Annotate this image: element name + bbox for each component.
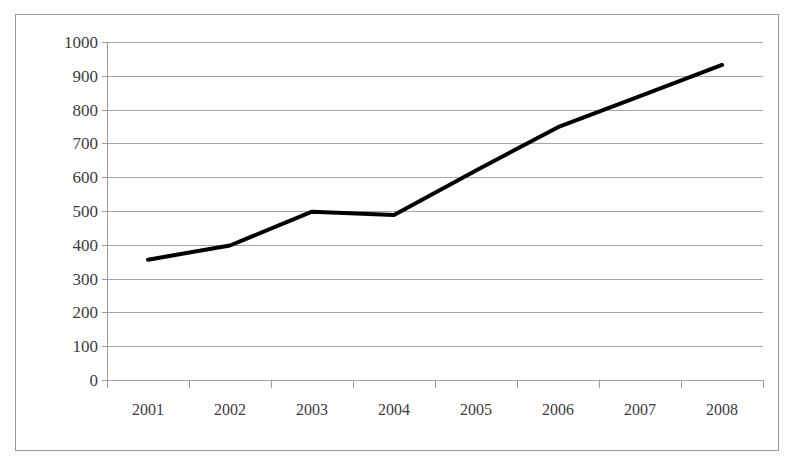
y-tick-label-800: 800 — [73, 101, 99, 118]
chart-outer-frame: 01002003004005006007008009001000 2001200… — [15, 14, 779, 451]
y-tick-label-0: 0 — [90, 372, 99, 389]
x-tick-label-2001: 2001 — [132, 402, 164, 418]
x-tick-label-2005: 2005 — [460, 402, 492, 418]
y-tick-label-400: 400 — [73, 236, 99, 253]
x-tick-label-2006: 2006 — [542, 402, 574, 418]
x-tick-mark-6 — [599, 380, 600, 388]
plot-area: 01002003004005006007008009001000 2001200… — [107, 42, 763, 380]
y-tick-label-500: 500 — [73, 203, 99, 220]
x-tick-mark-4 — [435, 380, 436, 388]
y-tick-label-200: 200 — [73, 304, 99, 321]
y-tick-label-600: 600 — [73, 169, 99, 186]
y-tick-label-1000: 1000 — [64, 34, 98, 51]
x-tick-label-2008: 2008 — [706, 402, 738, 418]
x-tick-label-2002: 2002 — [214, 402, 246, 418]
x-tick-label-2007: 2007 — [624, 402, 656, 418]
line-series-svg — [107, 42, 763, 380]
data-line-series-1 — [148, 65, 722, 260]
x-tick-mark-1 — [189, 380, 190, 388]
x-tick-mark-7 — [681, 380, 682, 388]
x-tick-mark-0 — [107, 380, 108, 388]
x-tick-mark-3 — [353, 380, 354, 388]
y-tick-label-700: 700 — [73, 135, 99, 152]
y-tick-label-300: 300 — [73, 270, 99, 287]
y-tick-label-900: 900 — [73, 67, 99, 84]
x-tick-label-2003: 2003 — [296, 402, 328, 418]
y-tick-label-100: 100 — [73, 338, 99, 355]
x-tick-mark-2 — [271, 380, 272, 388]
x-tick-mark-5 — [517, 380, 518, 388]
x-tick-label-2004: 2004 — [378, 402, 410, 418]
x-tick-mark-8 — [763, 380, 764, 388]
